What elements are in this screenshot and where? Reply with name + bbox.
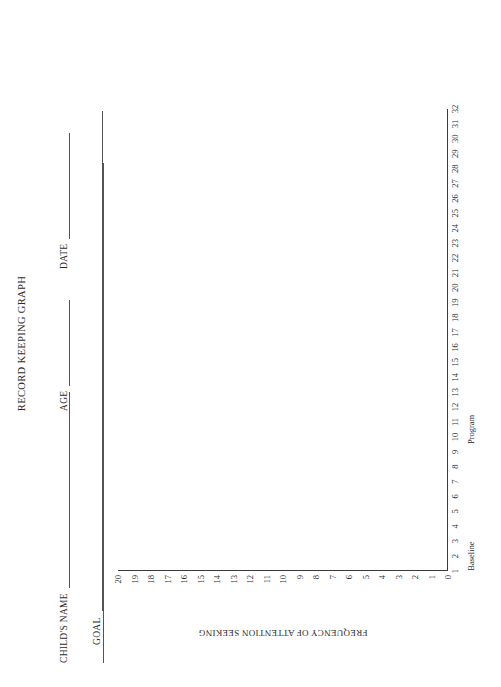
y-tick-label: 18	[147, 575, 156, 591]
x-tick-label: 15	[450, 358, 460, 367]
x-tick-label: 11	[450, 418, 460, 426]
y-tick-label: 19	[130, 575, 139, 591]
x-tick-label: 9	[450, 450, 460, 454]
x-tick-label: 2	[450, 554, 460, 558]
y-tick-label: 17	[163, 575, 172, 591]
phase-label: Baseline	[466, 541, 476, 570]
x-axis-line	[447, 109, 448, 571]
field-rule-childs-name[interactable]	[59, 392, 70, 588]
x-tick-label: 3	[450, 539, 460, 543]
x-tick-label: 29	[450, 149, 460, 158]
field-childs-name[interactable]: CHILD'S NAME	[59, 392, 70, 663]
y-tick-label: 14	[213, 575, 222, 591]
record-keeping-chart: 01234567891011121314151617181920 1234567…	[118, 109, 448, 571]
field-date[interactable]: DATE	[59, 133, 70, 269]
x-tick-label: 1	[450, 569, 460, 573]
y-tick-label: 9	[295, 575, 304, 591]
x-tick-label: 19	[450, 299, 460, 308]
x-tick-label: 27	[450, 179, 460, 188]
x-tick-label: 5	[450, 509, 460, 513]
x-tick-label: 12	[450, 403, 460, 412]
x-axis-tick-labels: 1234567891011121314151617181920212223242…	[450, 109, 464, 571]
y-tick-label: 7	[328, 575, 337, 591]
y-axis-title: FREQUENCY OF ATTENTION SEEKING	[118, 628, 448, 638]
y-axis-line	[118, 570, 448, 571]
field-label-goal: GOAL	[92, 611, 103, 645]
field-rule-age[interactable]	[59, 300, 70, 386]
field-label-date: DATE	[59, 239, 70, 269]
y-tick-label: 20	[114, 575, 123, 591]
phase-label: Program	[466, 415, 476, 444]
x-tick-label: 23	[450, 239, 460, 248]
x-tick-label: 8	[450, 465, 460, 469]
y-tick-label: 1	[427, 575, 436, 591]
field-rule-date[interactable]	[59, 133, 70, 239]
y-tick-label: 6	[345, 575, 354, 591]
x-tick-label: 20	[450, 284, 460, 293]
field-label-childs-name: CHILD'S NAME	[59, 588, 70, 663]
x-tick-label: 10	[450, 433, 460, 442]
x-tick-label: 16	[450, 343, 460, 352]
x-tick-label: 7	[450, 479, 460, 483]
page-title: RECORD KEEPING GRAPH	[16, 0, 27, 687]
phase-annotations: BaselineProgram	[466, 109, 480, 571]
x-tick-label: 26	[450, 194, 460, 203]
y-tick-label: 8	[312, 575, 321, 591]
field-goal[interactable]: GOAL	[92, 111, 103, 645]
x-tick-label: 17	[450, 328, 460, 337]
x-tick-label: 28	[450, 164, 460, 173]
field-age[interactable]: AGE	[59, 300, 70, 411]
field-label-age: AGE	[59, 386, 70, 411]
x-tick-label: 25	[450, 209, 460, 218]
x-tick-label: 18	[450, 313, 460, 322]
y-tick-label: 2	[411, 575, 420, 591]
header-fields-row: CHILD'S NAME AGE DATE	[52, 0, 70, 687]
y-axis-tick-labels: 01234567891011121314151617181920	[118, 575, 448, 591]
x-tick-label: 14	[450, 373, 460, 382]
y-tick-label: 15	[196, 575, 205, 591]
x-tick-label: 30	[450, 135, 460, 144]
y-tick-label: 12	[246, 575, 255, 591]
y-tick-label: 10	[279, 575, 288, 591]
x-tick-label: 13	[450, 388, 460, 397]
x-tick-label: 6	[450, 494, 460, 498]
field-rule-goal[interactable]	[92, 111, 103, 611]
y-tick-label: 13	[229, 575, 238, 591]
y-tick-label: 5	[361, 575, 370, 591]
y-tick-label: 0	[444, 575, 453, 591]
x-tick-label: 32	[450, 105, 460, 114]
y-tick-label: 3	[394, 575, 403, 591]
y-tick-label: 4	[378, 575, 387, 591]
x-tick-label: 24	[450, 224, 460, 233]
x-tick-label: 31	[450, 120, 460, 129]
rotated-page-canvas: RECORD KEEPING GRAPH CHILD'S NAME AGE DA…	[0, 0, 501, 687]
x-tick-label: 4	[450, 524, 460, 528]
worksheet-sheet: RECORD KEEPING GRAPH CHILD'S NAME AGE DA…	[0, 0, 501, 687]
x-tick-label: 21	[450, 269, 460, 278]
x-tick-label: 22	[450, 254, 460, 263]
y-tick-label: 11	[262, 575, 271, 591]
y-tick-label: 16	[180, 575, 189, 591]
